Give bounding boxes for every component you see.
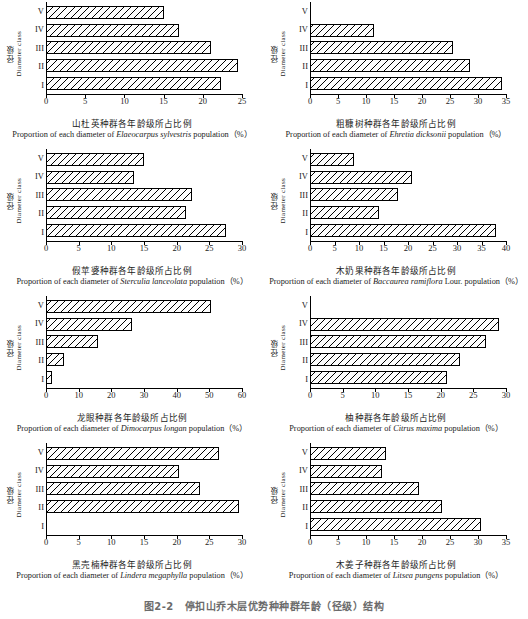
bar-V [46, 300, 211, 313]
y-axis-label-cn: 径级 [7, 487, 15, 504]
y-axis-label-en: Diameter class [16, 472, 23, 518]
bar-I [46, 371, 52, 384]
bar-I [46, 224, 226, 237]
x-tick-label: 30 [140, 391, 149, 400]
y-tick-label: V [293, 448, 308, 457]
caption-suffix: population（%） [446, 130, 506, 139]
x-tick-label: 0 [44, 97, 48, 106]
caption-prefix: Proportion of each diameter of [16, 571, 120, 580]
chart-panel-3: 径级Diameter classVIVIIIIII051015202530假苹婆… [0, 149, 264, 296]
x-tick-label: 10 [362, 97, 371, 106]
bar-row [310, 59, 506, 72]
y-tick-label: IV [293, 466, 308, 475]
x-tick-labels: 051015202530 [46, 244, 242, 255]
bar-row [310, 518, 506, 531]
figure-caption-text: 停扣山乔木层优势种种群年龄（径级）结构 [185, 601, 385, 612]
x-axis-caption: 龙眼种群各年龄级所占比例Proportion of each diameter … [0, 413, 264, 435]
caption-prefix: Proportion of each diameter of [12, 130, 116, 139]
x-tick-label: 10 [355, 244, 364, 253]
x-tick-label: 15 [379, 244, 388, 253]
x-axis-caption: 假苹婆种群各年龄级所占比例Proportion of each diameter… [0, 266, 264, 288]
bar-IV [310, 24, 374, 37]
x-tick-label: 10 [107, 538, 116, 547]
y-axis-label-cn: 径级 [271, 487, 279, 504]
x-axis-caption-en: Proportion of each diameter of Lindera m… [4, 571, 260, 581]
bar-row [310, 41, 506, 54]
x-axis-caption-cn: 木姜子种群各年龄级所占比例 [268, 560, 524, 570]
x-axis-caption-en: Proportion of each diameter of Baccaurea… [268, 277, 524, 287]
y-tick-label: V [293, 301, 308, 310]
y-tick-label: V [293, 154, 308, 163]
x-tick-label: 25 [428, 244, 437, 253]
bar-II [46, 59, 238, 72]
y-axis-label: 径级Diameter class [266, 2, 292, 106]
x-tick-labels: 051015202530 [46, 538, 242, 549]
x-tick-label: 0 [308, 391, 312, 400]
y-axis-label: 径级Diameter class [2, 296, 28, 400]
x-tick-label: 30 [238, 538, 247, 547]
x-axis-caption: 粗糠树种群各年龄级所占比例Proportion of each diameter… [264, 119, 528, 141]
bar-series [46, 443, 242, 535]
bar-V [46, 6, 164, 19]
x-tick-label: 5 [83, 97, 87, 106]
species-name: Ehretia dicksonii [389, 130, 446, 139]
bar-series [46, 296, 242, 388]
bar-row [46, 465, 242, 478]
bar-row [46, 482, 242, 495]
plot-area: 径级Diameter classVIVIIIIII05101520253035 [310, 2, 506, 106]
y-axis-label-cn: 径级 [271, 193, 279, 210]
bar-row [310, 353, 506, 366]
y-tick-label: II [293, 209, 308, 218]
bar-IV [310, 465, 382, 478]
y-tick-label: II [29, 503, 44, 512]
bar-row [46, 153, 242, 166]
caption-prefix: Proportion of each diameter of [269, 277, 373, 286]
y-tick-label: III [293, 338, 308, 347]
y-tick-label: II [29, 356, 44, 365]
bar-III [46, 188, 192, 201]
plot-area: 径级Diameter classVIVIIIIII051015202530 [46, 149, 242, 253]
bar-row [310, 153, 506, 166]
y-tick-label: I [29, 228, 44, 237]
y-tick-label: V [293, 7, 308, 16]
species-name: Sterculia lanceolata [120, 277, 187, 286]
y-tick-label: V [29, 7, 44, 16]
x-tick-labels: 0102030405060 [46, 391, 242, 402]
chart-panel-4: 径级Diameter classVIVIIIIII051015202530354… [264, 149, 528, 296]
y-tick-label: II [293, 503, 308, 512]
bar-row [46, 500, 242, 513]
x-tick-label: 50 [205, 391, 214, 400]
bar-row [310, 300, 506, 313]
bar-row [46, 171, 242, 184]
bar-series [46, 2, 242, 94]
x-tick-label: 5 [77, 538, 81, 547]
x-tick-label: 30 [238, 244, 247, 253]
caption-prefix: Proportion of each diameter of [289, 571, 393, 580]
x-tick-label: 25 [446, 538, 455, 547]
bar-III [46, 482, 200, 495]
x-tick-label: 0 [44, 391, 48, 400]
bar-IV [46, 465, 179, 478]
plot-area: 径级Diameter classVIVIIIIII0102030405060 [46, 296, 242, 400]
y-axis-label-en: Diameter class [280, 325, 287, 371]
x-tick-label: 15 [390, 97, 399, 106]
bar-row [46, 318, 242, 331]
bar-II [46, 353, 64, 366]
species-name: Citrus maxima [393, 424, 442, 433]
y-tick-label: II [29, 62, 44, 71]
y-tick-labels: VIVIIIIII [29, 443, 44, 535]
bar-row [310, 371, 506, 384]
y-tick-label: III [293, 44, 308, 53]
bar-row [310, 482, 506, 495]
x-tick-label: 20 [436, 391, 445, 400]
x-tick-label: 40 [502, 244, 511, 253]
x-tick-label: 20 [418, 97, 427, 106]
y-tick-labels: VIVIIIIII [29, 149, 44, 241]
y-tick-label: V [29, 301, 44, 310]
bar-row [310, 188, 506, 201]
x-axis-caption-cn: 木奶果种群各年龄级所占比例 [268, 266, 524, 276]
x-tick-label: 30 [453, 244, 462, 253]
bar-V [310, 153, 354, 166]
y-axis-label-en: Diameter class [280, 472, 287, 518]
y-axis-label: 径级Diameter class [2, 443, 28, 547]
